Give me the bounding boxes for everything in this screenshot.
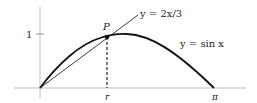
curve-label: y = sin x — [179, 38, 224, 49]
x-label-pi: π — [211, 92, 219, 102]
line-2x-over-3 — [40, 15, 138, 88]
y-tick-label-1: 1 — [26, 29, 32, 40]
point-p-label: P — [102, 21, 110, 32]
point-p-marker — [105, 35, 109, 39]
chart-canvas: 1 P r π y = 2x/3 y = sin x — [0, 0, 257, 103]
x-label-r: r — [105, 92, 110, 102]
line-label: y = 2x/3 — [139, 8, 182, 19]
